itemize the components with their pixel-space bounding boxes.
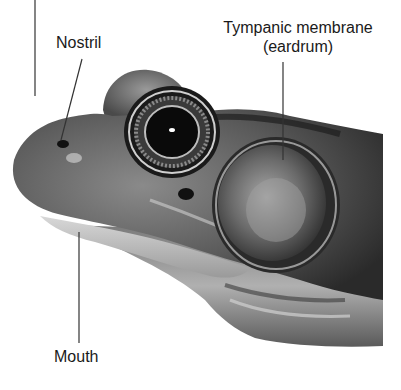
nostril-spot <box>57 140 69 148</box>
tympanic-label-line2: (eardrum) <box>198 37 398 56</box>
nostril-label: Nostril <box>56 33 101 52</box>
tympanic-label-line1: Tympanic membrane <box>198 18 398 37</box>
mouth-label: Mouth <box>54 347 98 366</box>
tympanic-membrane <box>212 137 340 273</box>
frog-head-illustration <box>0 0 401 390</box>
frog-anatomy-diagram: Nostril Tympanic membrane (eardrum) Mout… <box>0 0 401 390</box>
tympanic-membrane-label: Tympanic membrane (eardrum) <box>198 18 398 56</box>
eye <box>124 86 220 178</box>
